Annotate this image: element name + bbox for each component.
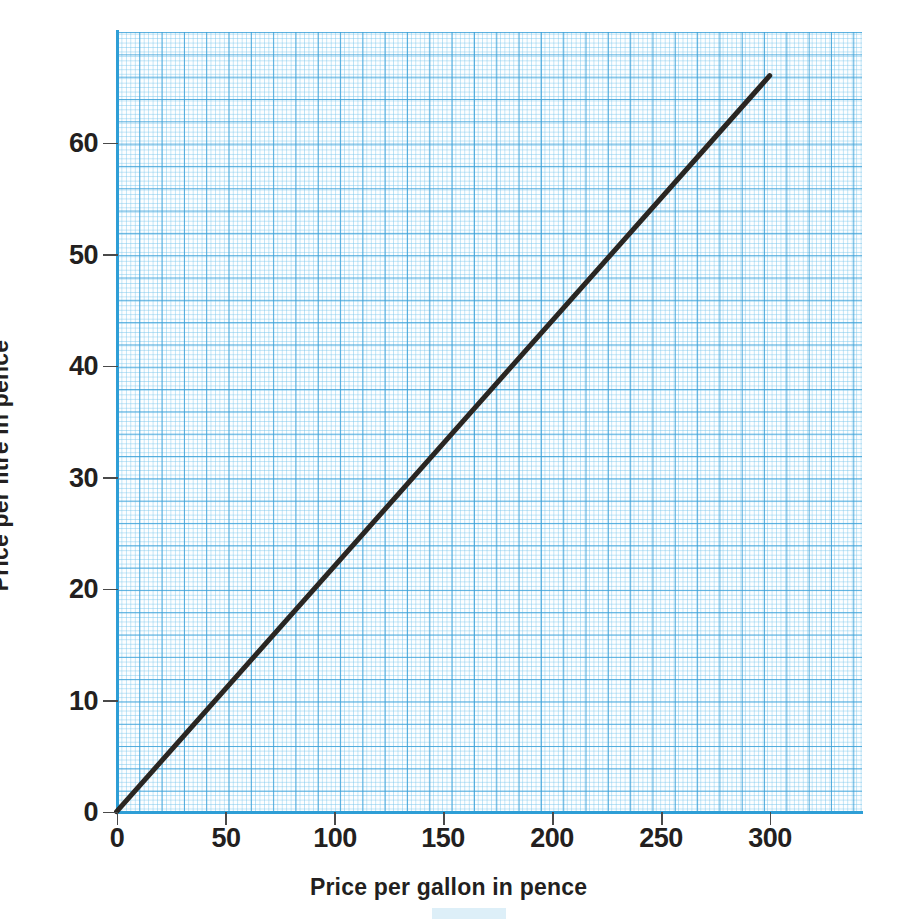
y-tick-label-10: 10 bbox=[34, 685, 98, 716]
y-tick-label-50: 50 bbox=[34, 239, 98, 270]
y-tick-label-0: 0 bbox=[34, 797, 98, 828]
y-axis-line bbox=[116, 30, 119, 814]
plot-area-graph-paper bbox=[117, 32, 862, 813]
y-tick-60 bbox=[103, 143, 118, 145]
x-tick-label-250: 250 bbox=[639, 823, 683, 854]
y-axis-title: Price per litre in pence bbox=[0, 340, 14, 592]
x-axis-line bbox=[116, 811, 863, 814]
x-tick-label-50: 50 bbox=[211, 823, 240, 854]
x-tick-label-200: 200 bbox=[530, 823, 574, 854]
x-axis-title: Price per gallon in pence bbox=[0, 874, 897, 901]
y-tick-label-20: 20 bbox=[34, 574, 98, 605]
x-tick-label-150: 150 bbox=[421, 823, 465, 854]
y-tick-50 bbox=[103, 254, 118, 256]
y-tick-20 bbox=[103, 589, 118, 591]
y-tick-label-60: 60 bbox=[34, 128, 98, 159]
scan-artifact bbox=[432, 908, 506, 919]
y-tick-30 bbox=[103, 477, 118, 479]
cut-off-caption-text bbox=[104, 0, 434, 5]
x-tick-label-0: 0 bbox=[110, 823, 125, 854]
y-tick-label-40: 40 bbox=[34, 351, 98, 382]
x-tick-label-300: 300 bbox=[748, 823, 792, 854]
x-tick-label-100: 100 bbox=[313, 823, 357, 854]
y-tick-label-30: 30 bbox=[34, 462, 98, 493]
y-tick-10 bbox=[103, 700, 118, 702]
y-tick-40 bbox=[103, 366, 118, 368]
